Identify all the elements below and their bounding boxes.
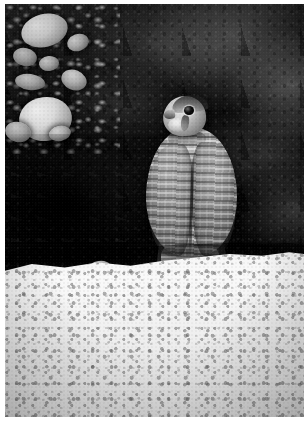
rock-ledge-cracks <box>5 249 304 417</box>
falcon-photograph <box>5 4 304 417</box>
falcon-wing-left <box>147 144 193 256</box>
falcon-eye <box>184 106 194 115</box>
falcon-wing-right <box>191 142 237 256</box>
screenshot-root <box>0 0 308 421</box>
